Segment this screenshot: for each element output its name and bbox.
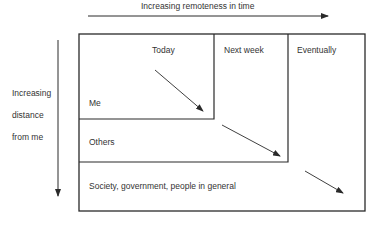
column-label-eventually: Eventually xyxy=(297,45,336,55)
diagonal-arrow-me xyxy=(155,70,203,111)
diagram-canvas xyxy=(0,0,374,226)
distance-axis-label-line-3: from me xyxy=(12,132,43,142)
column-label-next-week: Next week xyxy=(224,45,264,55)
diagonal-arrow-society xyxy=(305,171,343,193)
distance-axis-label-line-1: Increasing xyxy=(12,88,51,98)
distance-axis-label-line-2: distance xyxy=(12,110,44,120)
row-label-society: Society, government, people in general xyxy=(89,181,236,191)
time-axis-label: Increasing remoteness in time xyxy=(141,1,254,11)
row-label-me: Me xyxy=(89,98,101,108)
row-label-others: Others xyxy=(89,137,115,147)
column-label-today: Today xyxy=(152,45,175,55)
diagonal-arrow-others xyxy=(222,125,280,156)
